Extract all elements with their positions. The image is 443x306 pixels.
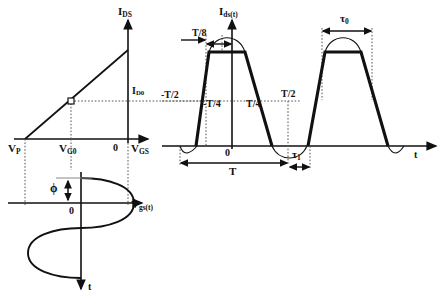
unclipped-sine-peak-1 [209,38,245,52]
transfer-origin-label: 0 [113,143,118,153]
clipped-pulse-2 [308,52,388,146]
gate-voltage-plot [8,172,142,289]
neg-t-half-label: -T/2 [161,90,179,100]
gate-voltage-axis-label: Vgs(t) [131,199,153,211]
drain-current-plot [162,20,436,170]
pinchoff-voltage-label: VP [8,143,21,155]
drain-current-axis-label: Ids(t) [219,6,238,18]
transfer-line [25,50,128,139]
transfer-characteristic-plot [14,20,206,205]
t-half-label: T/2 [281,89,295,99]
gate-bias-voltage-label: VG0 [59,143,77,155]
waveform-origin-label: 0 [225,148,230,158]
transfer-x-axis-label: VGS [131,143,149,155]
input-time-axis-label: t [88,282,91,292]
waveform-time-axis-label: t [414,150,417,160]
bias-current-label: ID0 [132,86,144,97]
input-origin-label: 0 [69,206,74,216]
sine-cutoff-dip-3 [388,146,404,153]
period-label: T [229,166,236,177]
tau1-label: τ1 [292,149,301,161]
tau0-label: τ0 [340,13,349,25]
transfer-y-axis-label: IDS [118,6,132,18]
t-quarter-label: T/4 [246,99,260,109]
sine-cutoff-dip-2 [272,146,307,158]
phi-label: ϕ [50,182,58,194]
sine-cutoff-dip-1 [180,146,197,153]
operating-point-marker [68,98,74,104]
unclipped-sine-peak-2 [325,38,361,52]
t8-label: T/8 [192,28,206,38]
neg-t-quarter-label: -T/4 [203,99,221,109]
